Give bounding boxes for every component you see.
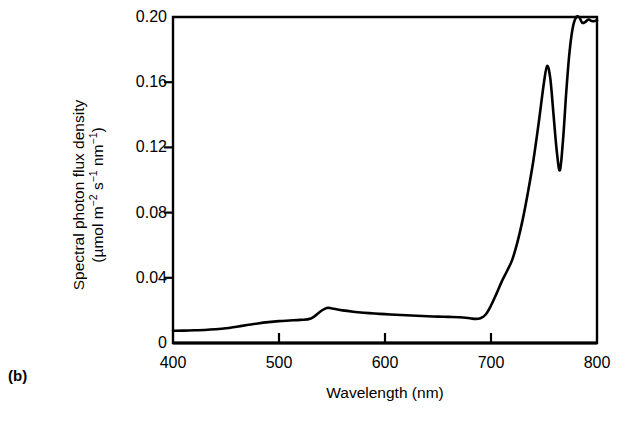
axis-frame [173,17,597,343]
axis-tick-marks [164,82,491,343]
figure-panel-b: (b) Spectral photon flux density (µmol m… [0,0,628,421]
data-series-group [173,16,597,330]
plot-box-outline [173,17,597,343]
plot-area [0,0,628,421]
data-line-series-0 [173,16,597,330]
